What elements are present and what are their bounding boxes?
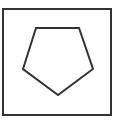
square-frame: [3, 9, 111, 115]
pentagon-shape: [23, 28, 93, 95]
diagram-canvas: [0, 0, 123, 124]
